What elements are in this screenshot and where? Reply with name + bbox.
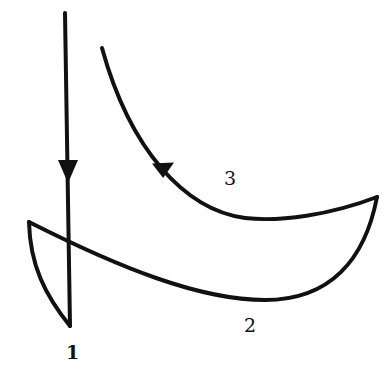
label-3: 3	[224, 167, 236, 189]
path-3-curve	[102, 48, 377, 219]
label-2: 2	[244, 314, 256, 336]
arrow-down-icon	[58, 160, 78, 183]
label-1: 1	[66, 341, 79, 363]
diagram-canvas: 1 2 3	[0, 0, 388, 377]
